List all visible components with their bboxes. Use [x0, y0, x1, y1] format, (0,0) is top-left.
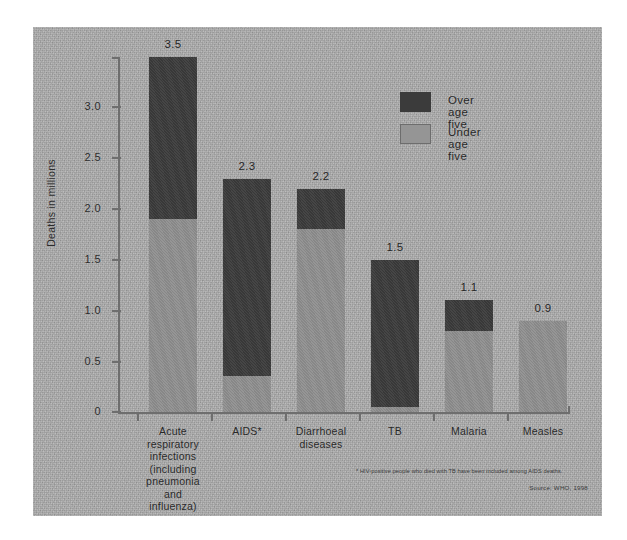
x-tick-5	[507, 413, 509, 421]
x-axis-line	[118, 412, 570, 414]
chart-figure: Deaths in millions 3.0 2.5 2.0 1.5 1.0 0…	[0, 0, 627, 540]
y-tick-label-0: 0	[37, 405, 101, 417]
y-tick-0.5	[112, 361, 121, 363]
x-category-label-5: Measles	[507, 425, 579, 438]
legend-label-under-age-five: Under age five	[448, 126, 481, 162]
x-tick-2	[285, 413, 287, 421]
bar-value-4: 1.1	[429, 281, 509, 293]
bar-value-3: 1.5	[355, 241, 435, 253]
cat2-line0: Diarrhoeal	[285, 425, 357, 438]
x-category-label-4: Malaria	[433, 425, 505, 438]
bar-segment-under-4	[445, 331, 493, 412]
cat0-line1: respiratory	[137, 438, 209, 451]
bar-segment-under-2	[297, 229, 345, 412]
x-tick-4	[433, 413, 435, 421]
bar-segment-over-0	[149, 57, 197, 219]
legend-swatch-over-age-five	[400, 92, 431, 112]
bar-segment-over-2	[297, 189, 345, 230]
x-tick-0	[137, 413, 139, 421]
x-tick-3	[359, 413, 361, 421]
bar-value-0: 3.5	[133, 38, 213, 50]
cat5-line0: Measles	[507, 425, 579, 438]
legend-swatch-under-age-five	[400, 124, 431, 144]
y-tick-label-1.0: 1.0	[37, 304, 101, 316]
y-tick-3.0	[112, 106, 121, 108]
plot-area: Deaths in millions 3.0 2.5 2.0 1.5 1.0 0…	[33, 27, 602, 516]
y-tick-label-1.5: 1.5	[37, 253, 101, 265]
cat1-line0: AIDS*	[211, 425, 283, 438]
cat0-line0: Acute	[137, 425, 209, 438]
cat3-line0: TB	[359, 425, 431, 438]
cat4-line0: Malaria	[433, 425, 505, 438]
y-tick-1.5	[112, 259, 121, 261]
bar-segment-under-5	[519, 321, 567, 412]
y-tick-label-0.5: 0.5	[37, 355, 101, 367]
bar-segment-under-3	[371, 407, 419, 412]
cat0-line3: (including	[137, 463, 209, 476]
x-category-label-0: Acute respiratory infections (including …	[137, 425, 209, 513]
cat0-line4: pneumonia and	[137, 475, 209, 500]
bar-value-1: 2.3	[207, 160, 287, 172]
y-tick-label-2.5: 2.5	[37, 151, 101, 163]
x-axis-right-cap	[568, 406, 570, 414]
y-tick-0	[112, 411, 121, 413]
bar-segment-under-1	[223, 376, 271, 412]
cat0-line2: infections	[137, 450, 209, 463]
y-axis-line	[118, 57, 120, 413]
legend-label-over-age-five: Over age five	[448, 94, 474, 130]
x-category-label-1: AIDS*	[211, 425, 283, 438]
cat0-line5: influenza)	[137, 500, 209, 513]
x-category-label-3: TB	[359, 425, 431, 438]
y-tick-2.5	[112, 157, 121, 159]
y-axis-top-cap	[112, 57, 120, 59]
y-tick-2.0	[112, 208, 121, 210]
chart-panel: Deaths in millions 3.0 2.5 2.0 1.5 1.0 0…	[33, 27, 602, 516]
y-tick-label-2.0: 2.0	[37, 202, 101, 214]
bar-segment-over-1	[223, 179, 271, 377]
cat2-line1: diseases	[285, 438, 357, 451]
chart-source: Source: WHO, 1998	[356, 484, 588, 491]
bar-value-2: 2.2	[281, 170, 361, 182]
bar-segment-over-4	[445, 300, 493, 330]
chart-footnote: * HIV-positive people who died with TB h…	[356, 467, 588, 475]
x-category-label-2: Diarrhoeal diseases	[285, 425, 357, 450]
y-tick-label-3.0: 3.0	[37, 100, 101, 112]
x-tick-1	[211, 413, 213, 421]
bar-segment-over-3	[371, 260, 419, 407]
y-tick-1.0	[112, 310, 121, 312]
bar-segment-under-0	[149, 219, 197, 412]
bar-value-5: 0.9	[503, 302, 583, 314]
